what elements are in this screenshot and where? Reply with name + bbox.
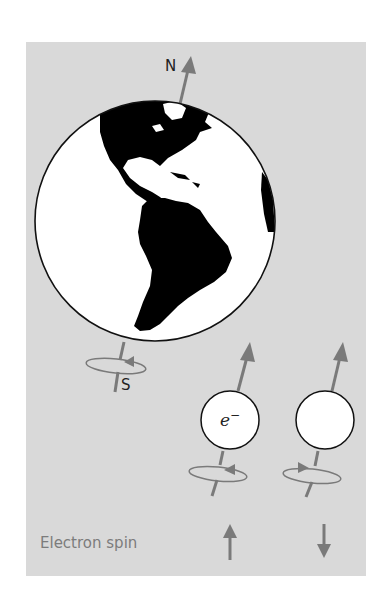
north-axis-arrow xyxy=(180,56,196,104)
south-axis-spin xyxy=(85,342,146,392)
electron-spin-down xyxy=(282,342,354,497)
spin-up-arrow-icon xyxy=(223,524,237,560)
electron-letter: e xyxy=(220,410,230,430)
spin-down-arrow-icon xyxy=(317,524,331,558)
north-pole-label: N xyxy=(165,59,176,74)
electron-charge: − xyxy=(230,408,240,422)
south-pole-label: S xyxy=(121,378,131,393)
figure-caption: Electron spin xyxy=(40,536,137,551)
earth-globe xyxy=(35,98,275,341)
electron-spin-diagram xyxy=(0,0,384,594)
electron-symbol: e− xyxy=(220,409,240,429)
